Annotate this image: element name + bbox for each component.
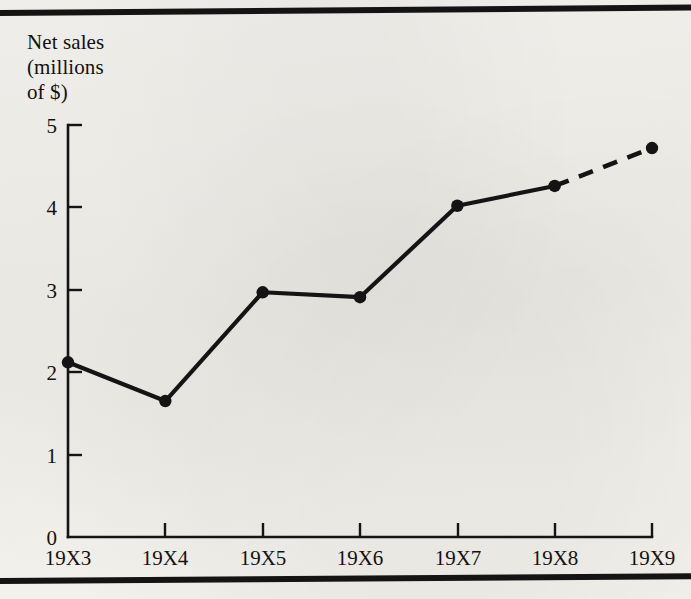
x-axis-tick-labels: 19X3 19X4 19X5 19X6 19X7 19X8 19X9	[45, 546, 676, 570]
line-chart-plot: 5 4 3 2 1 0 19X3 19X4 19X5 19X6 19X7 19X…	[0, 0, 691, 599]
y-tick-label-4: 4	[47, 196, 58, 220]
x-tick-label-19X8: 19X8	[532, 546, 579, 570]
y-tick-label-3: 3	[47, 279, 58, 303]
data-line-solid	[68, 186, 555, 401]
data-point-19X6	[354, 291, 366, 303]
x-tick-label-19X4: 19X4	[142, 546, 189, 570]
y-tick-label-2: 2	[47, 361, 58, 385]
y-axis-ticks	[68, 125, 82, 455]
x-tick-label-19X5: 19X5	[240, 546, 287, 570]
y-tick-label-5: 5	[47, 114, 58, 138]
x-tick-label-19X9: 19X9	[629, 546, 676, 570]
data-point-19X7	[451, 200, 463, 212]
data-point-19X4	[159, 395, 171, 407]
data-point-19X8	[548, 180, 560, 192]
chart-axes	[68, 125, 652, 537]
data-line-dashed-projection	[555, 148, 652, 186]
figure-page: Net sales (millions of $) 5 4 3 2 1 0	[0, 0, 691, 599]
x-tick-label-19X3: 19X3	[45, 546, 92, 570]
data-point-19X3	[62, 356, 74, 368]
y-axis-tick-labels: 5 4 3 2 1 0	[47, 114, 58, 550]
data-point-19X9	[646, 142, 658, 154]
x-tick-label-19X7: 19X7	[435, 546, 482, 570]
y-tick-label-1: 1	[47, 444, 58, 468]
data-point-19X5	[256, 286, 268, 298]
x-axis-ticks	[165, 523, 652, 537]
x-tick-label-19X6: 19X6	[337, 546, 384, 570]
